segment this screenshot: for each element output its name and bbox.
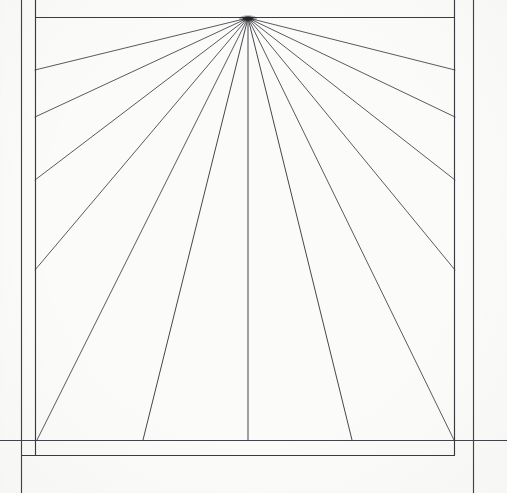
paper-background bbox=[0, 0, 507, 493]
perspective-diagram-svg bbox=[0, 0, 507, 493]
vanishing-point-marker bbox=[239, 15, 257, 21]
drawing-canvas bbox=[0, 0, 507, 493]
